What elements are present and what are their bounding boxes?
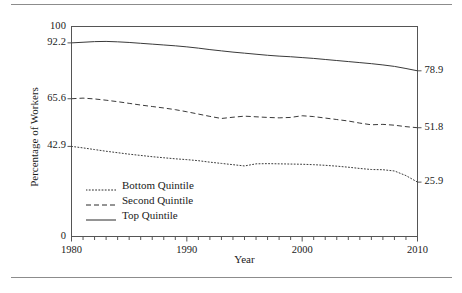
y-axis-right-label: 25.9 (425, 175, 444, 186)
legend-label: Second Quintile (122, 195, 193, 206)
x-axis-label: 2010 (407, 244, 428, 255)
series-line-top-quintile (72, 41, 418, 70)
legend-label: Bottom Quintile (122, 180, 194, 191)
legend-swatch-dotted (86, 181, 116, 191)
y-axis-left-label: 65.6 (14, 92, 66, 103)
legend-swatch-dashed (86, 196, 116, 206)
chart-legend: Bottom QuintileSecond QuintileTop Quinti… (86, 178, 194, 223)
legend-item: Top Quintile (86, 208, 194, 223)
legend-label: Top Quintile (122, 210, 178, 221)
x-axis-label: 1980 (61, 244, 82, 255)
legend-item: Second Quintile (86, 193, 194, 208)
figure-container: Percentage of Workers Year 10092.265.642… (0, 0, 462, 293)
y-axis-left-label: 42.9 (14, 139, 66, 150)
y-axis-left-label: 100 (14, 20, 66, 31)
y-axis-title: Percentage of Workers (28, 57, 40, 217)
y-axis-left-label: 92.2 (14, 36, 66, 47)
y-axis-right-label: 78.9 (425, 64, 444, 75)
x-axis-title: Year (71, 253, 418, 265)
legend-item: Bottom Quintile (86, 178, 194, 193)
y-axis-left-label: 0 (14, 230, 66, 241)
y-axis-right-label: 51.8 (425, 121, 444, 132)
x-axis-label: 2000 (292, 244, 313, 255)
x-axis-label: 1990 (176, 244, 197, 255)
series-line-bottom-quintile (72, 146, 418, 182)
series-line-second-quintile (72, 98, 418, 128)
legend-swatch-solid (86, 211, 116, 221)
